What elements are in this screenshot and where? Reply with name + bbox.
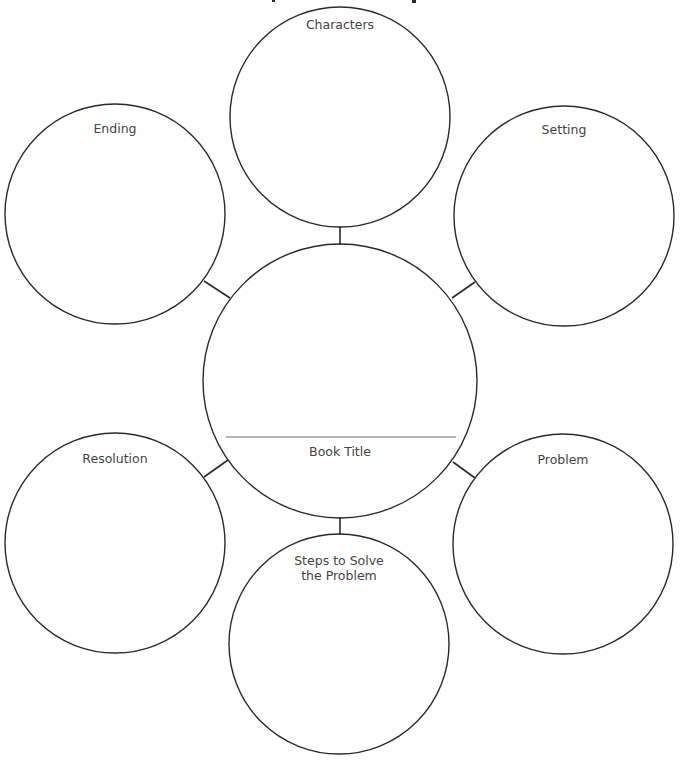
clipped-title-fragments xyxy=(272,0,416,3)
circle-ending[interactable] xyxy=(5,104,225,324)
label-characters: Characters xyxy=(306,17,374,32)
connector-problem xyxy=(453,462,475,478)
center-circle-book-title[interactable] xyxy=(203,244,477,518)
label-resolution: Resolution xyxy=(82,451,147,466)
label-book-title: Book Title xyxy=(309,444,371,459)
circle-characters[interactable] xyxy=(230,7,450,227)
label-ending: Ending xyxy=(93,121,136,136)
label-setting: Setting xyxy=(542,122,587,137)
circle-setting[interactable] xyxy=(454,106,674,326)
circle-problem[interactable] xyxy=(453,434,673,654)
story-map-diagram xyxy=(0,0,681,769)
label-problem: Problem xyxy=(537,452,588,467)
connector-ending xyxy=(204,281,230,298)
connector-setting xyxy=(452,282,475,298)
connector-resolution xyxy=(204,460,228,477)
label-steps-to-solve: Steps to Solve the Problem xyxy=(294,553,384,583)
circle-resolution[interactable] xyxy=(5,433,225,653)
